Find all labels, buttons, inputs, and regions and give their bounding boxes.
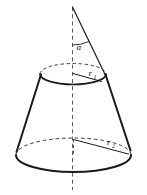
bottom-radius-subscript-label: 2 [112, 143, 115, 149]
figure-background [0, 0, 147, 195]
frustum-figure-container: α r 1 r 2 [0, 0, 147, 195]
apex-angle-label: α [77, 42, 82, 52]
top-radius-subscript-label: 1 [94, 74, 97, 80]
top-radius-label: r [89, 68, 93, 78]
bottom-radius-label: r [107, 137, 111, 147]
frustum-diagram-svg: α r 1 r 2 [0, 0, 147, 195]
